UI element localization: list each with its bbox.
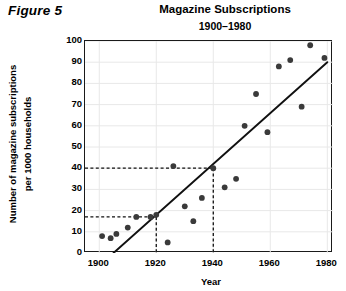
x-axis-tick-1960: 1960	[247, 258, 291, 268]
y-axis-label-line-2: per 1000 households	[22, 97, 33, 192]
data-point	[153, 212, 159, 218]
y-axis-label: Number of magazine subscriptions per 100…	[0, 36, 36, 252]
data-point	[113, 231, 119, 237]
data-point	[199, 195, 205, 201]
x-axis-tick-1980: 1980	[304, 258, 346, 268]
chart-title: Magazine Subscriptions	[120, 3, 330, 15]
y-axis-tick-60: 60	[56, 120, 82, 130]
data-point	[125, 225, 131, 231]
x-axis-tick-1940: 1940	[190, 258, 234, 268]
scatter-plot-canvas	[85, 41, 333, 253]
trend-line	[114, 62, 328, 253]
data-point	[233, 176, 239, 182]
y-axis-tick-80: 80	[56, 77, 82, 87]
trend-line-segment	[114, 62, 328, 253]
gridlines	[85, 41, 333, 253]
data-point	[222, 184, 228, 190]
data-point	[133, 214, 139, 220]
chart-subtitle: 1900–1980	[120, 20, 330, 32]
y-axis-tick-30: 30	[56, 183, 82, 193]
data-point	[265, 129, 271, 135]
data-point	[108, 235, 114, 241]
y-axis-label-line-1: Number of magazine subscriptions	[7, 65, 18, 223]
y-axis-tick-40: 40	[56, 162, 82, 172]
data-point	[170, 163, 176, 169]
figure-label: Figure 5	[8, 3, 62, 18]
x-axis-label: Year	[80, 276, 342, 287]
data-point	[287, 57, 293, 63]
y-axis-tick-70: 70	[56, 99, 82, 109]
figure-container: Figure 5 Magazine Subscriptions 1900–198…	[0, 0, 346, 291]
data-point	[322, 55, 328, 61]
data-point	[299, 104, 305, 110]
data-point	[165, 240, 171, 246]
y-axis-tick-50: 50	[56, 141, 82, 151]
data-point	[276, 64, 282, 70]
data-point	[190, 218, 196, 224]
x-axis-tick-1900: 1900	[76, 258, 120, 268]
y-axis-tick-0: 0	[56, 247, 82, 257]
y-axis-tick-90: 90	[56, 56, 82, 66]
data-point	[148, 214, 154, 220]
data-point	[242, 123, 248, 129]
data-point	[253, 91, 259, 97]
x-axis-tick-1920: 1920	[133, 258, 177, 268]
data-point	[210, 165, 216, 171]
y-axis-tick-10: 10	[56, 226, 82, 236]
data-point	[99, 233, 105, 239]
plot-area	[84, 40, 332, 252]
y-axis-tick-100: 100	[56, 35, 82, 45]
x-axis-tick-labels: 19001920194019601980	[84, 258, 332, 272]
y-axis-tick-labels: 0102030405060708090100	[52, 40, 82, 252]
y-axis-tick-20: 20	[56, 205, 82, 215]
data-point	[307, 42, 313, 48]
data-point	[182, 203, 188, 209]
